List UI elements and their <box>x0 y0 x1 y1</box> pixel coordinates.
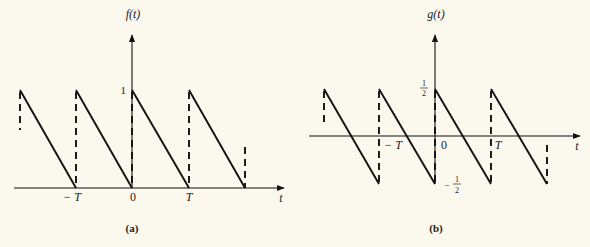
panel-a: f(t) 1 − T 0 T t (a) <box>14 7 284 235</box>
svg-text:2: 2 <box>455 186 459 195</box>
t-axis-label-b: t <box>575 139 579 153</box>
tick-label-half: 1 2 <box>420 79 428 98</box>
panel-b: g(t) 1 2 − 1 2 − T 0 T t (b) <box>309 7 580 235</box>
tick-label-one: 1 <box>121 84 127 96</box>
caption-b: (b) <box>429 222 443 235</box>
tick-label-minus-half: − 1 2 <box>444 175 461 195</box>
f-axis-label: f(t) <box>126 7 141 21</box>
tick-label-minus-T-a: − T <box>63 190 82 204</box>
svg-text:−: − <box>444 180 449 190</box>
g-axis-label: g(t) <box>427 7 444 21</box>
tick-label-zero-b: 0 <box>441 138 447 152</box>
tick-label-minus-T-b: − T <box>384 138 403 152</box>
tick-label-T-b: T <box>495 138 503 152</box>
caption-a: (a) <box>126 222 139 235</box>
svg-text:2: 2 <box>422 89 426 98</box>
svg-text:1: 1 <box>455 175 459 184</box>
tick-label-T-a: T <box>186 190 194 204</box>
svg-text:1: 1 <box>422 79 426 88</box>
t-axis-label-a: t <box>279 191 283 205</box>
tick-label-zero-a: 0 <box>130 190 136 204</box>
figure: f(t) 1 − T 0 T t (a) g(t) 1 <box>0 0 590 247</box>
